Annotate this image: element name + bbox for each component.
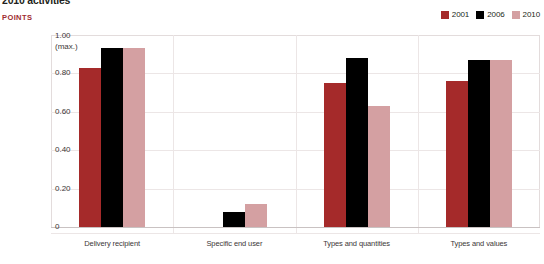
bar-group [173, 35, 295, 227]
x-axis-label: Specific end user [173, 239, 295, 248]
bar-group [418, 35, 540, 227]
bar-2006 [101, 48, 123, 227]
x-axis-tick [173, 228, 174, 234]
legend-label: 2010 [523, 11, 540, 19]
legend-item-2006: 2006 [476, 11, 504, 19]
x-axis-label: Delivery recipient [51, 239, 173, 248]
bar-group [296, 35, 418, 227]
bar-2001 [324, 83, 346, 227]
legend-swatch-icon [512, 11, 520, 19]
y-axis-tick-text: 0 [55, 221, 101, 232]
x-axis-label: Types and quantities [296, 239, 418, 248]
y-axis-tick-text: 0.60 [55, 106, 101, 117]
x-axis-tick [296, 228, 297, 234]
y-axis-tick-text: 0.40 [55, 144, 101, 155]
bar-2010 [123, 48, 145, 227]
bar-2010 [245, 204, 267, 227]
legend: 200120062010 [441, 11, 540, 19]
legend-label: 2006 [487, 11, 504, 19]
x-axis-tick [418, 228, 419, 234]
legend-swatch-icon [476, 11, 484, 19]
bar-2006 [223, 212, 245, 227]
legend-swatch-icon [441, 11, 449, 19]
page-title: 2010 activities [2, 0, 70, 6]
x-axis-label: Types and values [418, 239, 540, 248]
bar-group [51, 35, 173, 227]
bar-2010 [368, 106, 390, 227]
bar-2006 [468, 60, 490, 227]
legend-item-2001: 2001 [441, 11, 469, 19]
y-axis-tick-text: 1.00 (max.) [55, 30, 101, 52]
y-axis-tick-text: 0.80 [55, 67, 101, 78]
legend-label: 2001 [452, 11, 469, 19]
bar-2006 [346, 58, 368, 227]
bar-2010 [490, 60, 512, 227]
bar-2001 [446, 81, 468, 227]
legend-item-2010: 2010 [512, 11, 540, 19]
y-axis-unit-label: POINTS [2, 13, 32, 22]
y-axis-tick-text: 0.20 [55, 183, 101, 194]
plot-area [51, 35, 540, 228]
